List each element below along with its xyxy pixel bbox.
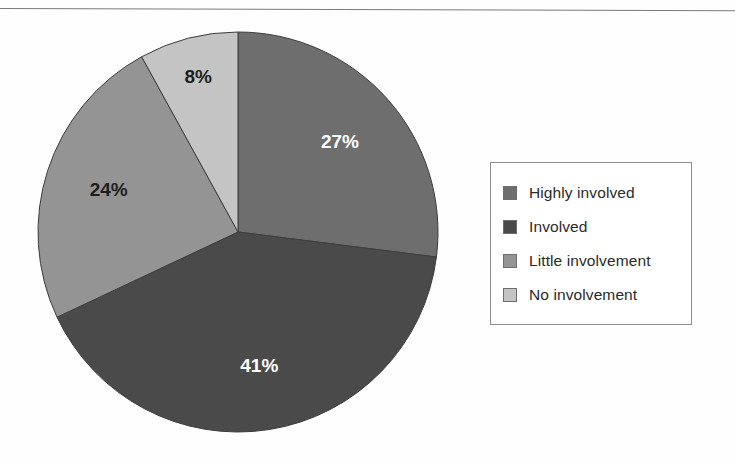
pie-slice-data-label: 24% xyxy=(90,179,128,200)
legend-item-highly-involved[interactable]: Highly involved xyxy=(503,176,691,210)
pie-slice-data-label: 27% xyxy=(321,131,359,152)
legend-swatch-icon xyxy=(503,288,517,302)
legend-item-label: Little involvement xyxy=(529,252,651,270)
pie-slice-group xyxy=(38,32,438,432)
chart-legend: Highly involved Involved Little involvem… xyxy=(490,162,692,325)
legend-swatch-icon xyxy=(503,186,517,200)
pie-chart-figure: 27%41%24%8% Highly involved Involved Lit… xyxy=(0,0,735,463)
legend-item-no-involvement[interactable]: No involvement xyxy=(503,278,691,312)
figure-top-rule xyxy=(0,8,735,11)
legend-item-label: Highly involved xyxy=(529,184,635,202)
legend-swatch-icon xyxy=(503,220,517,234)
pie-chart-area: 27%41%24%8% xyxy=(36,30,440,434)
pie-slice-data-label: 41% xyxy=(240,355,278,376)
pie-slice-data-label: 8% xyxy=(184,66,212,87)
legend-item-involved[interactable]: Involved xyxy=(503,210,691,244)
legend-item-label: No involvement xyxy=(529,286,637,304)
pie-svg: 27%41%24%8% xyxy=(36,30,440,434)
legend-swatch-icon xyxy=(503,254,517,268)
legend-item-label: Involved xyxy=(529,218,588,236)
legend-item-little-involvement[interactable]: Little involvement xyxy=(503,244,691,278)
